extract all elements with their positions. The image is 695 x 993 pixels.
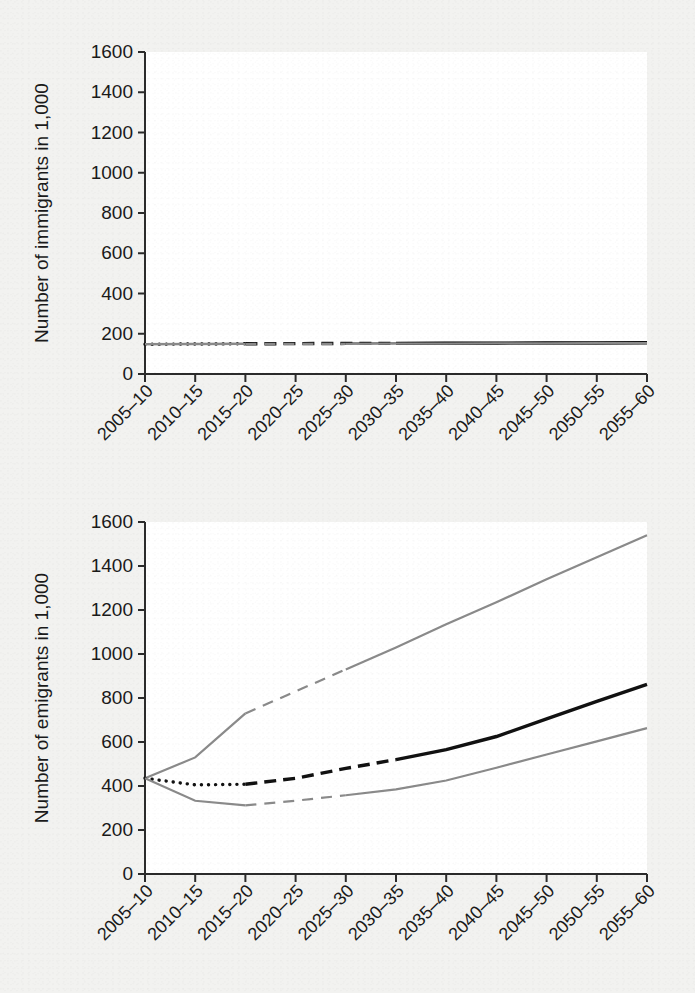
y-tick-label: 400 xyxy=(101,283,133,304)
series-group xyxy=(145,342,647,344)
y-tick-label: 1600 xyxy=(91,511,133,532)
y-tick-label: 600 xyxy=(101,242,133,263)
y-tick-label: 1400 xyxy=(91,555,133,576)
x-axis-tick-labels: 2005–102010–152015–202020–252025–302030–… xyxy=(93,381,659,445)
y-tick-label: 1200 xyxy=(91,599,133,620)
y-tick-label: 1400 xyxy=(91,81,133,102)
y-tick-label: 600 xyxy=(101,731,133,752)
chart-panel-emigrants: Number of emigrants in 1,000 02004006008… xyxy=(0,500,695,993)
y-tick-label: 200 xyxy=(101,323,133,344)
y-tick-label: 1000 xyxy=(91,162,133,183)
y-axis-ticks: 02004006008001000120014001600 xyxy=(91,511,145,884)
y-tick-label: 800 xyxy=(101,687,133,708)
y-axis-ticks: 02004006008001000120014001600 xyxy=(91,41,145,384)
y-tick-label: 1600 xyxy=(91,41,133,62)
plot-area-background xyxy=(145,52,647,374)
y-axis-label: Number of emigrants in 1,000 xyxy=(31,573,52,823)
x-axis-ticks xyxy=(145,374,647,382)
y-tick-label: 0 xyxy=(122,363,133,384)
x-axis-ticks xyxy=(145,874,647,882)
figure-page: Number of immigrants in 1,000 0200400600… xyxy=(0,0,695,993)
y-tick-label: 200 xyxy=(101,819,133,840)
y-axis-label: Number of immigrants in 1,000 xyxy=(31,83,52,343)
x-tick-label: 2055–60 xyxy=(595,381,659,445)
x-tick-label: 2055–60 xyxy=(595,881,659,945)
emigrants-chart-svg: Number of emigrants in 1,000 02004006008… xyxy=(0,500,695,993)
immigrants-chart-svg: Number of immigrants in 1,000 0200400600… xyxy=(0,0,695,500)
y-tick-label: 400 xyxy=(101,775,133,796)
x-axis-tick-labels: 2005–102010–152015–202020–252025–302030–… xyxy=(93,881,659,945)
y-tick-label: 1000 xyxy=(91,643,133,664)
series-line-lower-bound-projected-solid xyxy=(346,343,647,344)
plot-area-background xyxy=(145,522,647,874)
y-tick-label: 1200 xyxy=(91,122,133,143)
y-tick-label: 800 xyxy=(101,202,133,223)
y-tick-label: 0 xyxy=(122,863,133,884)
chart-panel-immigrants: Number of immigrants in 1,000 0200400600… xyxy=(0,0,695,500)
